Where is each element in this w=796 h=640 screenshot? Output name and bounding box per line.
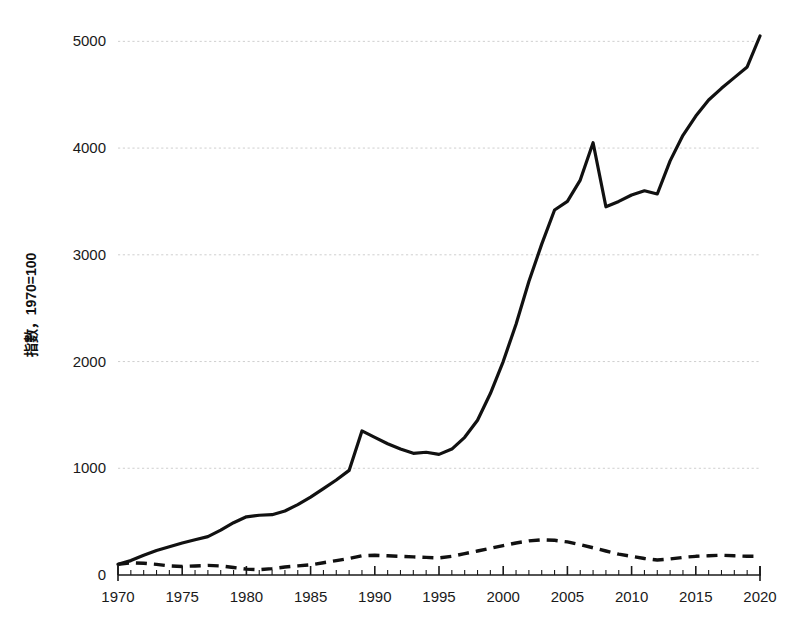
- y-tick-label: 3000: [73, 246, 106, 263]
- y-tick-label: 4000: [73, 139, 106, 156]
- x-axis-tick-labels: 1970197519801985199019952000200520102015…: [101, 588, 776, 605]
- x-tick-label: 2020: [743, 588, 776, 605]
- line-chart: 010002000300040005000 197019751980198519…: [0, 0, 796, 640]
- y-tick-label: 5000: [73, 32, 106, 49]
- y-axis-title: 指數，1970=100: [23, 252, 39, 357]
- y-axis-title-text: 指數，1970=100: [23, 252, 39, 357]
- data-series-group: [118, 36, 760, 570]
- x-tick-label: 1975: [166, 588, 199, 605]
- y-tick-label: 0: [98, 566, 106, 583]
- x-tick-label: 2000: [487, 588, 520, 605]
- x-tick-label: 1970: [101, 588, 134, 605]
- gridlines-group: [118, 41, 760, 468]
- x-tick-label: 1980: [230, 588, 263, 605]
- y-axis-tick-labels: 010002000300040005000: [73, 32, 106, 583]
- x-tick-label: 2005: [551, 588, 584, 605]
- y-tick-label: 1000: [73, 459, 106, 476]
- series-line-solid-series: [118, 36, 760, 564]
- x-tick-label: 1990: [358, 588, 391, 605]
- x-tick-label: 2010: [615, 588, 648, 605]
- y-tick-label: 2000: [73, 353, 106, 370]
- x-axis: [118, 566, 761, 581]
- x-tick-label: 2015: [679, 588, 712, 605]
- x-tick-label: 1995: [422, 588, 455, 605]
- series-line-dashed-series: [118, 540, 760, 570]
- chart-container: 010002000300040005000 197019751980198519…: [0, 0, 796, 640]
- x-tick-label: 1985: [294, 588, 327, 605]
